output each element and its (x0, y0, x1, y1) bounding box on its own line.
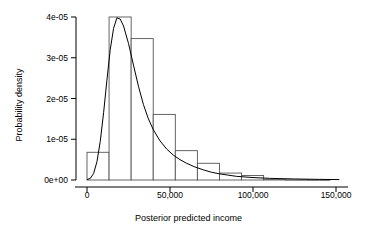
x-axis-ticks (87, 187, 336, 192)
y-tick-label: 1e-05 (46, 134, 68, 144)
x-tick-label: 150,000 (321, 190, 352, 200)
histogram-bars (87, 17, 330, 180)
x-tick-label: 0 (85, 190, 90, 200)
chart-figure: Posterior predicted income Probability d… (0, 0, 377, 237)
y-tick-label: 2e-05 (46, 94, 68, 104)
x-tick-label: 50,000 (157, 190, 183, 200)
y-tick-label: 4e-05 (46, 12, 68, 22)
y-tick-label: 0e+00 (44, 175, 68, 185)
y-axis-ticks (71, 17, 76, 180)
histogram-bar (131, 39, 153, 180)
y-axis-title: Probability density (14, 40, 24, 170)
histogram-bar (175, 151, 197, 180)
x-axis-title: Posterior predicted income (0, 213, 377, 223)
histogram-density-plot (0, 0, 377, 237)
histogram-bar (153, 114, 175, 180)
y-tick-label: 3e-05 (46, 53, 68, 63)
x-tick-label: 100,000 (238, 190, 269, 200)
